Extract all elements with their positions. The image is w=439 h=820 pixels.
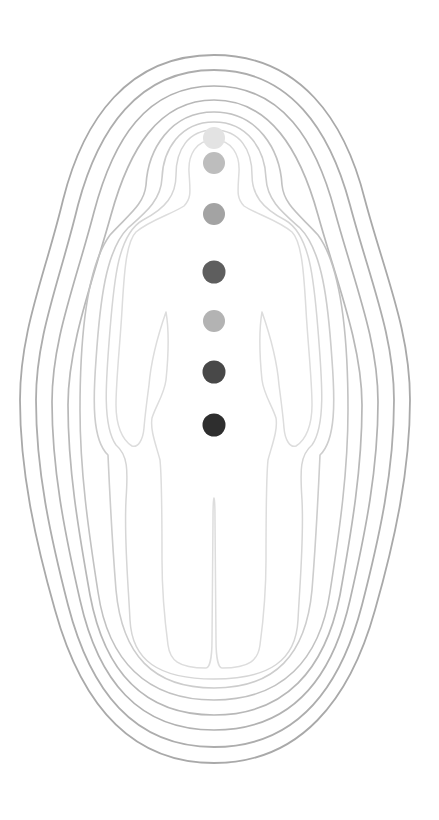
aura-layer-5 [80, 112, 348, 700]
chakra-throat-dot [203, 203, 225, 225]
chakra-root-dot [203, 414, 226, 437]
aura-layer-4 [68, 100, 362, 715]
chakra-crown-dot [203, 127, 225, 149]
chakra-heart-dot [203, 261, 226, 284]
aura-diagram [0, 0, 439, 820]
aura-illustration [0, 0, 439, 820]
chakra-sacral-dot [203, 361, 226, 384]
chakra-solar-plexus-dot [203, 310, 225, 332]
chakra-third-eye-dot [203, 152, 225, 174]
chakra-points [203, 127, 226, 437]
